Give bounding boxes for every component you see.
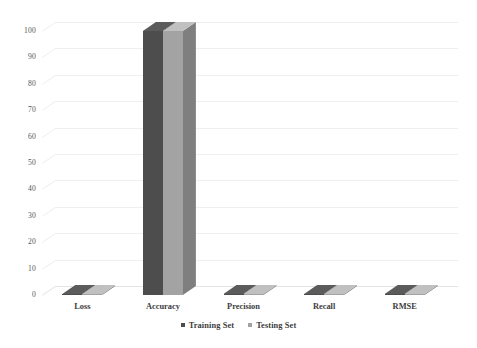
bar-side-face xyxy=(183,22,196,295)
bar-front-face xyxy=(304,294,324,295)
bar-top-face xyxy=(82,285,115,294)
x-axis-category-label: Loss xyxy=(37,302,127,311)
legend-label: Training Set xyxy=(189,321,234,330)
bar-front-face xyxy=(143,31,163,295)
x-axis-category-label: Accuracy xyxy=(118,302,208,311)
gridline xyxy=(55,48,458,49)
legend-swatch-icon xyxy=(181,323,185,327)
bar-front-face xyxy=(163,31,183,295)
bar-chart: 0102030405060708090100 LossAccuracyPreci… xyxy=(0,0,477,348)
bar xyxy=(82,285,115,295)
y-axis-tick-label: 50 xyxy=(6,158,36,167)
gridline xyxy=(55,75,458,76)
gridline xyxy=(55,233,458,234)
bar xyxy=(405,285,438,295)
y-axis-tick-label: 0 xyxy=(6,290,36,299)
bar xyxy=(244,285,277,295)
axis-wall-diagonal xyxy=(42,260,56,270)
axis-wall-diagonal xyxy=(42,22,56,32)
y-axis-tick-label: 70 xyxy=(6,105,36,114)
axis-wall-diagonal xyxy=(42,286,56,296)
gridline xyxy=(55,101,458,102)
axis-wall-diagonal xyxy=(42,180,56,190)
y-axis-tick-label: 80 xyxy=(6,79,36,88)
legend-label: Testing Set xyxy=(256,321,296,330)
bar-top-face xyxy=(244,285,277,294)
axis-wall-diagonal xyxy=(42,128,56,138)
legend-entry[interactable]: Testing Set xyxy=(248,320,296,330)
gridline xyxy=(55,260,458,261)
axis-wall-diagonal xyxy=(42,48,56,58)
y-axis-tick-label: 10 xyxy=(6,264,36,273)
bar-top-face xyxy=(324,285,357,294)
bar-front-face xyxy=(62,294,82,295)
axis-wall-diagonal xyxy=(42,101,56,111)
axis-wall-diagonal xyxy=(42,154,56,164)
bar-front-face xyxy=(224,294,244,295)
y-axis-tick-label: 60 xyxy=(6,132,36,141)
y-axis-tick-label: 100 xyxy=(6,26,36,35)
x-axis-category-label: Precision xyxy=(199,302,289,311)
gridline xyxy=(55,207,458,208)
bar-front-face xyxy=(244,294,264,295)
y-axis-tick-label: 90 xyxy=(6,52,36,61)
y-axis-tick-label: 30 xyxy=(6,211,36,220)
bar-front-face xyxy=(82,294,102,295)
gridline xyxy=(55,180,458,181)
chart-legend: Training SetTesting Set xyxy=(0,320,477,330)
legend-swatch-icon xyxy=(248,323,252,327)
bar-front-face xyxy=(405,294,425,295)
bar-top-face xyxy=(405,285,438,294)
legend-entry[interactable]: Training Set xyxy=(181,320,234,330)
y-axis-tick-label: 40 xyxy=(6,184,36,193)
bar-front-face xyxy=(385,294,405,295)
bar xyxy=(324,285,357,295)
gridline xyxy=(55,22,458,23)
axis-wall-diagonal xyxy=(42,75,56,85)
x-axis-category-label: Recall xyxy=(279,302,369,311)
x-axis-category-label: RMSE xyxy=(360,302,450,311)
axis-wall-diagonal xyxy=(42,233,56,243)
gridline xyxy=(55,128,458,129)
axis-wall-diagonal xyxy=(42,207,56,217)
bar-front-face xyxy=(324,294,344,295)
bar xyxy=(163,22,196,295)
gridline xyxy=(55,154,458,155)
y-axis-tick-label: 20 xyxy=(6,237,36,246)
